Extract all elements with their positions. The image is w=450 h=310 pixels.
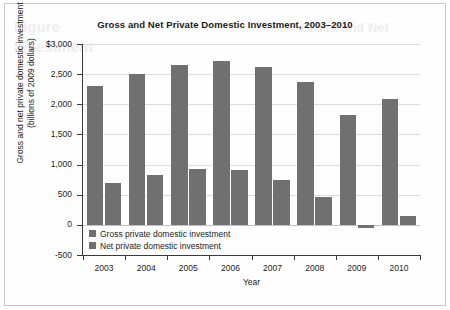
bar (231, 170, 248, 225)
x-tick-mark (83, 256, 84, 260)
legend-item-gross: Gross private domestic investment (89, 228, 230, 239)
y-tick-mark (77, 225, 83, 226)
y-axis-label-line-1: Gross and net private domestic investmen… (15, 0, 26, 183)
x-axis-label: Year (83, 277, 420, 287)
x-tick-mark (252, 256, 253, 260)
x-tick-label: 2003 (83, 263, 125, 273)
y-tick-label: 2,500 (51, 69, 72, 79)
y-tick-mark (77, 74, 83, 75)
chart-title: Gross and Net Private Domestic Investmen… (0, 19, 450, 30)
y-tick-mark (77, 165, 83, 166)
y-tick-label: 1,000 (51, 159, 72, 169)
y-tick-label: 2,000 (51, 99, 72, 109)
x-tick-label: 2005 (167, 263, 209, 273)
y-axis-label-line-2: (billions of 2009 dollars) (26, 0, 37, 183)
bar (382, 99, 399, 224)
y-tick-label: -500 (55, 250, 72, 260)
legend-item-net: Net private domestic investment (89, 240, 230, 251)
gridline (83, 44, 420, 45)
bar (273, 180, 290, 225)
x-tick-label: 2006 (209, 263, 251, 273)
bar (87, 86, 104, 225)
bar (129, 74, 146, 225)
legend-label-net: Net private domestic investment (100, 241, 221, 251)
x-tick-mark (294, 256, 295, 260)
x-tick-label: 2010 (378, 263, 420, 273)
x-tick-mark (420, 256, 421, 260)
y-tick-mark (77, 195, 83, 196)
x-tick-label: 2008 (294, 263, 336, 273)
plot-area (83, 44, 420, 255)
x-tick-mark (125, 256, 126, 260)
x-tick-label: 2004 (125, 263, 167, 273)
bar (315, 197, 332, 225)
x-tick-mark (209, 256, 210, 260)
bar (105, 183, 122, 225)
bar (255, 67, 272, 225)
y-tick-mark (77, 44, 83, 45)
y-axis-label: Gross and net private domestic investmen… (15, 0, 37, 183)
bar (358, 225, 375, 228)
y-tick-mark (77, 104, 83, 105)
chart-legend: Gross private domestic investment Net pr… (89, 228, 230, 252)
y-tick-label: $3,000 (46, 39, 72, 49)
y-tick-label: 500 (58, 189, 72, 199)
y-tick-label: 1,500 (51, 129, 72, 139)
x-tick-label: 2007 (252, 263, 294, 273)
bar (147, 175, 164, 225)
bar (213, 61, 230, 224)
x-tick-mark (378, 256, 379, 260)
x-tick-mark (167, 256, 168, 260)
legend-swatch-net (89, 242, 96, 249)
chart-figure: Figure Investment Gross and Net Gross an… (0, 0, 450, 310)
y-tick-label: 0 (67, 219, 72, 229)
bar (340, 115, 357, 225)
bar (400, 216, 417, 225)
bar (189, 169, 206, 225)
x-tick-mark (336, 256, 337, 260)
legend-swatch-gross (89, 230, 96, 237)
x-tick-label: 2009 (336, 263, 378, 273)
legend-label-gross: Gross private domestic investment (100, 229, 230, 239)
bar (297, 82, 314, 225)
y-tick-mark (77, 134, 83, 135)
bar (171, 65, 188, 225)
